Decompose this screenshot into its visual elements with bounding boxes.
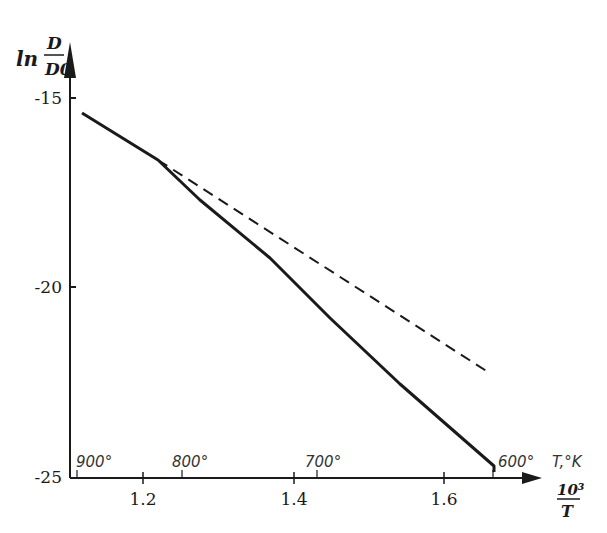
temperature-ticks: 900° 800° 700° 600° T,°K [76, 453, 583, 478]
secondary-x-label: T,°K [552, 453, 583, 471]
x-tick-label: 1.6 [430, 489, 457, 509]
svg-text:T: T [561, 502, 574, 521]
series-measured [82, 113, 494, 472]
x-tick-label: 1.2 [129, 489, 156, 509]
temperature-label: 900° [76, 453, 112, 471]
x-tick-label: 1.4 [280, 489, 307, 509]
y-tick-label: -20 [35, 277, 62, 297]
series-extrapolated [158, 160, 488, 372]
temperature-label: 800° [172, 453, 208, 471]
x-axis-title: 10³ T [557, 481, 585, 521]
y-tick-label: -15 [35, 88, 62, 108]
chart: -15 -20 -25 1.2 1.4 1.6 900° 800° 700° 6… [0, 0, 607, 533]
y-axis-title: ln D D0 [16, 33, 72, 79]
temperature-label: 600° [498, 453, 534, 471]
temperature-label: 700° [305, 453, 341, 471]
svg-text:D: D [46, 33, 62, 53]
svg-text:10³: 10³ [557, 481, 585, 499]
x-axis-arrow-icon [522, 472, 542, 484]
svg-text:D0: D0 [44, 59, 72, 79]
y-tick-label: -25 [35, 467, 62, 487]
svg-text:ln: ln [16, 47, 38, 71]
